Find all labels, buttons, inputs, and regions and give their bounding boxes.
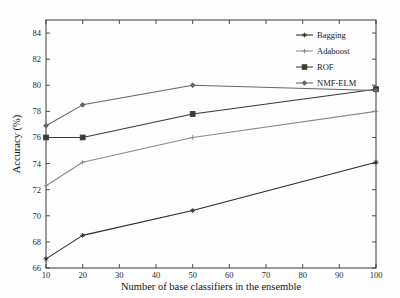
series-line xyxy=(46,85,376,125)
y-tick-label: 72 xyxy=(33,185,42,195)
legend-label: ROF xyxy=(317,62,334,72)
y-tick-label: 76 xyxy=(33,132,42,142)
legend-label: Adaboost xyxy=(317,46,350,56)
data-point-marker xyxy=(44,123,49,128)
series-rof xyxy=(44,87,379,140)
series-line xyxy=(46,162,376,259)
plot-frame xyxy=(46,20,376,268)
legend-label: Bagging xyxy=(317,30,347,40)
chart-figure: BaggingAdaboostROFNMF-ELM 10203040506070… xyxy=(0,0,400,298)
y-axis-title: Accuracy (%) xyxy=(11,114,23,173)
y-tick-label: 84 xyxy=(33,28,42,38)
x-tick-label: 20 xyxy=(78,270,87,280)
y-tick-label: 74 xyxy=(33,159,42,169)
x-tick-label: 90 xyxy=(335,270,344,280)
y-tick-label: 66 xyxy=(33,263,42,273)
legend-entry-rof[interactable]: ROF xyxy=(296,62,334,72)
y-tick-label: 78 xyxy=(33,106,42,116)
legend-entry-nmf-elm[interactable]: NMF-ELM xyxy=(296,78,357,88)
series-nmf-elm xyxy=(44,83,379,128)
data-point-marker xyxy=(190,83,195,88)
axes-layer xyxy=(46,20,376,268)
y-tick-label: 80 xyxy=(33,80,42,90)
x-tick-label: 30 xyxy=(115,270,124,280)
data-point-marker xyxy=(44,135,49,140)
series-adaboost xyxy=(44,109,379,188)
legend-label: NMF-ELM xyxy=(317,78,357,88)
y-tick-label: 82 xyxy=(33,54,42,64)
x-axis-title: Number of base classifiers in the ensemb… xyxy=(121,281,302,292)
series-line xyxy=(46,111,376,185)
y-tick-label: 68 xyxy=(33,237,42,247)
legend-entry-adaboost[interactable]: Adaboost xyxy=(296,46,350,56)
data-point-marker xyxy=(302,65,307,70)
x-tick-label: 70 xyxy=(262,270,271,280)
data-point-marker xyxy=(80,102,85,107)
data-point-marker xyxy=(190,112,195,117)
x-tick-label: 100 xyxy=(370,270,383,280)
x-tick-label: 60 xyxy=(225,270,234,280)
series-line xyxy=(46,89,376,137)
series-bagging xyxy=(44,160,379,261)
x-tick-label: 40 xyxy=(152,270,161,280)
data-point-marker xyxy=(80,135,85,140)
legend-entry-bagging[interactable]: Bagging xyxy=(296,30,347,40)
x-tick-label: 80 xyxy=(298,270,307,280)
x-tick-label: 10 xyxy=(42,270,51,280)
data-point-marker xyxy=(302,81,307,86)
y-tick-label: 70 xyxy=(33,211,42,221)
x-tick-label: 50 xyxy=(188,270,197,280)
chart-canvas: BaggingAdaboostROFNMF-ELM 10203040506070… xyxy=(0,0,400,298)
series-layer xyxy=(44,83,379,261)
legend-layer: BaggingAdaboostROFNMF-ELM xyxy=(296,30,357,88)
